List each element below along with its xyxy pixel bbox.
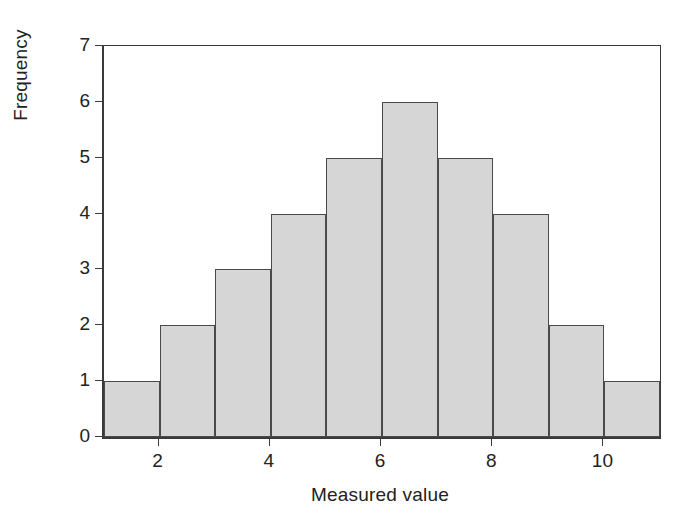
histogram-bars <box>104 46 660 437</box>
histogram-bar <box>604 381 660 437</box>
x-axis-tick-marks <box>102 437 658 447</box>
x-axis-tick-mark <box>602 437 603 446</box>
histogram-bar <box>493 214 549 437</box>
y-axis-tick-label: 5 <box>60 146 90 168</box>
x-axis-tick-label: 2 <box>133 450 183 472</box>
plot-area <box>102 45 661 439</box>
histogram-bar <box>215 269 271 437</box>
y-axis-tick-mark <box>95 157 102 158</box>
x-axis-tick-label: 4 <box>244 450 294 472</box>
y-axis-tick-mark <box>95 380 102 381</box>
y-axis-tick-label: 1 <box>60 369 90 391</box>
histogram-bar <box>160 325 216 437</box>
y-axis-tick-mark <box>95 213 102 214</box>
y-axis-title: Frequency <box>10 0 40 185</box>
histogram-figure: Frequency 01234567 246810 Measured value <box>0 0 690 532</box>
y-axis-tick-label: 4 <box>60 202 90 224</box>
y-axis-tick-labels: 01234567 <box>56 45 90 436</box>
x-axis-tick-label: 8 <box>466 450 516 472</box>
y-axis-tick-label: 2 <box>60 313 90 335</box>
histogram-bar <box>438 158 494 437</box>
histogram-bar <box>326 158 382 437</box>
histogram-bar <box>271 214 327 437</box>
x-axis-tick-mark <box>491 437 492 446</box>
x-axis-tick-mark <box>380 437 381 446</box>
y-axis-tick-mark <box>95 268 102 269</box>
x-axis-tick-label: 10 <box>577 450 627 472</box>
y-axis-tick-mark <box>95 101 102 102</box>
x-axis-tick-mark <box>269 437 270 446</box>
x-axis-tick-labels: 246810 <box>102 450 658 476</box>
x-axis-tick-mark <box>158 437 159 446</box>
y-axis-tick-mark <box>95 436 102 437</box>
y-axis-tick-mark <box>95 324 102 325</box>
histogram-bar <box>549 325 605 437</box>
x-axis-tick-label: 6 <box>355 450 405 472</box>
y-axis-tick-mark <box>95 45 102 46</box>
y-axis-tick-label: 6 <box>60 90 90 112</box>
y-axis-tick-label: 3 <box>60 257 90 279</box>
x-axis-title: Measured value <box>102 484 658 506</box>
histogram-bar <box>104 381 160 437</box>
histogram-bar <box>382 102 438 437</box>
y-axis-tick-label: 0 <box>60 425 90 447</box>
y-axis-tick-label: 7 <box>60 34 90 56</box>
